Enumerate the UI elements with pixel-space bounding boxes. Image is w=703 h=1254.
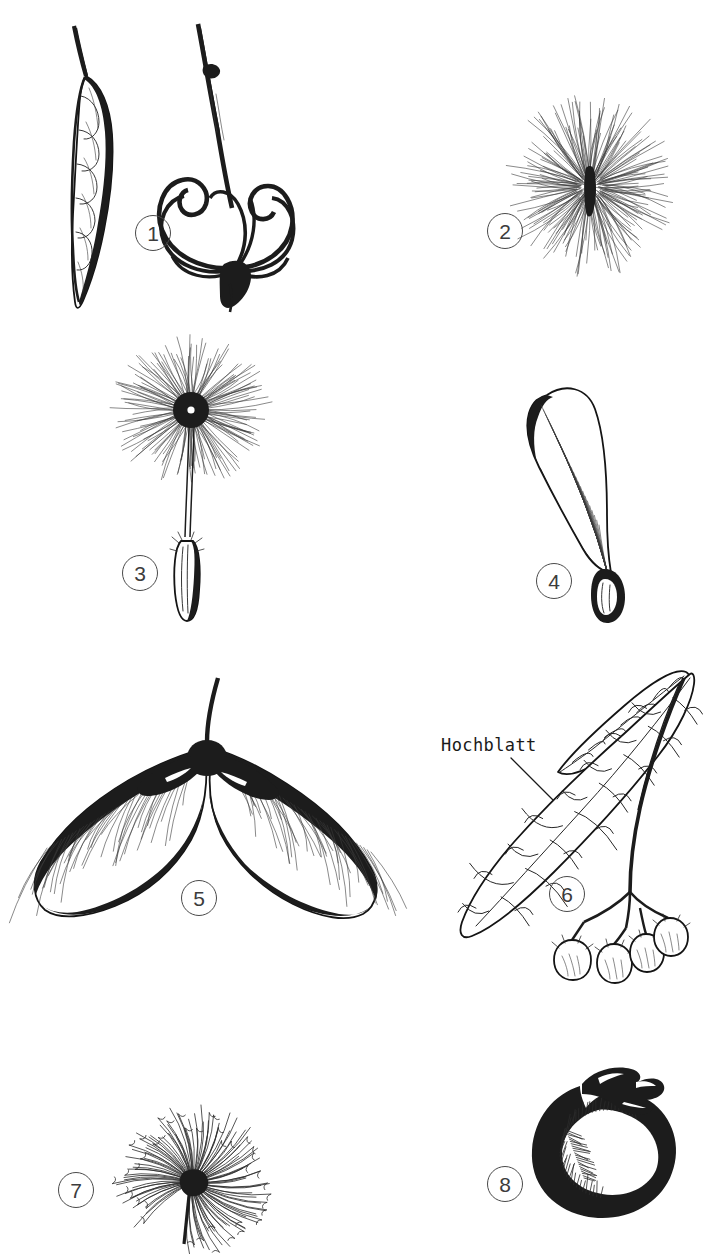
hatch-stroke — [200, 421, 236, 471]
marker-1: 1 — [135, 215, 171, 251]
figure-4-drawing — [495, 365, 685, 630]
marker-2: 2 — [487, 213, 523, 249]
figure-8-seed-with-aril — [520, 1050, 700, 1240]
figure-3-pappus-achene — [105, 355, 305, 635]
hatch-stroke — [228, 1238, 235, 1241]
samara-seed — [591, 569, 625, 623]
figure-1-drawing — [52, 18, 302, 318]
marker-4: 4 — [536, 563, 572, 599]
hatch-stroke — [141, 1154, 146, 1159]
figure-7-drawing — [98, 1030, 328, 1250]
samara-stalk — [207, 678, 218, 742]
hatch-stroke — [602, 192, 666, 225]
figure-3-drawing — [105, 355, 305, 635]
hatch-stroke — [262, 1202, 266, 1208]
marker-5: 5 — [181, 880, 217, 916]
hatch-stroke — [203, 373, 250, 403]
hatch-stroke — [202, 419, 250, 434]
seed-body — [532, 1086, 676, 1218]
pod-body — [72, 76, 113, 308]
hatch-stroke — [595, 138, 620, 178]
hatch-stroke — [554, 194, 586, 252]
marker-8: 8 — [487, 1166, 523, 1202]
pod-stalk — [74, 26, 87, 76]
figure-2-drawing — [500, 82, 680, 282]
hatch-stroke — [267, 1194, 271, 1200]
achene-body — [170, 532, 204, 621]
figure-6-linden-fruit-cluster — [418, 660, 703, 990]
hatch-stroke — [214, 1115, 220, 1119]
hatch-stroke — [238, 1231, 244, 1234]
figure-1-legume-pod — [52, 18, 302, 318]
figure-2-hairy-seed-tuft — [500, 82, 680, 282]
marker-6: 6 — [549, 876, 585, 912]
marker-3: 3 — [122, 555, 158, 591]
hatch-stroke — [247, 1137, 250, 1144]
hatch-stroke — [205, 402, 272, 410]
hatch-stroke — [110, 408, 177, 409]
hatch-stroke — [515, 907, 533, 914]
figure-6-drawing — [418, 660, 703, 990]
twisted-pod-twig — [198, 24, 232, 208]
hatch-stroke — [218, 1128, 223, 1133]
twisted-valves — [159, 179, 293, 312]
marker-7: 7 — [58, 1172, 94, 1208]
pappus-hub — [173, 392, 209, 428]
illustration-plate: Hochblatt — [0, 0, 703, 1254]
hatch-stroke — [506, 166, 581, 183]
seed-core — [584, 166, 596, 217]
figure-8-drawing — [520, 1050, 700, 1240]
nutlet — [552, 935, 593, 980]
samara-wing — [527, 388, 611, 573]
figure-4-single-samara — [495, 365, 685, 630]
figure-7-hooked-burr — [98, 1030, 328, 1250]
beak — [185, 427, 194, 537]
hatch-stroke — [158, 1117, 165, 1119]
nutlet — [653, 914, 690, 956]
hatch-stroke — [129, 1141, 134, 1146]
hatch-stroke — [125, 1169, 129, 1175]
hatch-stroke — [205, 390, 249, 407]
hatch-stroke — [119, 383, 178, 404]
hochblatt-leader-line — [505, 752, 575, 812]
nutlet — [595, 939, 635, 983]
